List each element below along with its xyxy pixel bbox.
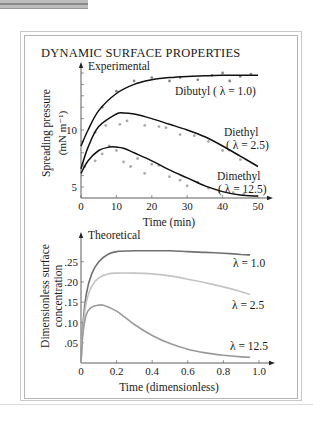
- data-point: [133, 80, 136, 83]
- theoretical-chart: .05.10.15.20.2500.20.40.60.81.0Theoretic…: [39, 229, 275, 394]
- data-point: [221, 149, 224, 152]
- x-tick-label: 10: [111, 200, 123, 212]
- x-tick-label: 50: [253, 200, 265, 212]
- y-tick-label: .15: [64, 296, 78, 308]
- x-axis-arrow-icon: [267, 196, 273, 200]
- x-tick-label: 0.8: [217, 365, 231, 377]
- curve-label-lambda-12.5: λ = 12.5: [230, 340, 268, 352]
- y-axis-label: Spreading pressure: [40, 89, 53, 177]
- x-tick-label: 40: [217, 200, 229, 212]
- series-label-dimethyl: Dimethyl: [217, 170, 260, 183]
- y-tick-label: .20: [64, 276, 78, 288]
- y-axis-label-line2: concentration: [52, 264, 64, 327]
- series-label-dibutyl: Dibutyl ( λ = 1.0): [175, 85, 256, 98]
- data-point: [168, 80, 171, 83]
- x-tick-label: 0.2: [110, 365, 124, 377]
- data-point: [51, 169, 54, 172]
- data-point: [196, 78, 199, 81]
- data-point: [101, 153, 104, 156]
- y-axis-arrow-icon: [79, 62, 83, 68]
- x-axis-label: Time (dimensionless): [119, 381, 219, 394]
- y-tick-label: 5: [72, 181, 78, 193]
- data-point: [165, 126, 168, 129]
- experimental-chart: 51001020304050ExperimentalTime (min)Spre…: [40, 60, 273, 229]
- panel-label-theoretical: Theoretical: [88, 229, 140, 241]
- x-tick-label: 30: [182, 200, 194, 212]
- x-tick-label: 0: [78, 200, 84, 212]
- series-label-diethyl: Diethyl: [224, 126, 259, 139]
- curve-label-lambda-1: λ = 1.0: [233, 257, 265, 269]
- data-point: [207, 140, 210, 143]
- data-point: [104, 124, 107, 127]
- y-axis-label: Dimensionless surface: [39, 244, 51, 348]
- data-point: [193, 134, 196, 137]
- y-tick-label: .10: [64, 317, 78, 329]
- x-axis-label: Time (min): [143, 216, 195, 229]
- curve-label-lambda-2.5: λ = 2.5: [232, 299, 264, 311]
- charts-canvas: 51001020304050ExperimentalTime (min)Spre…: [0, 0, 313, 431]
- y-axis-arrow-icon: [79, 232, 83, 238]
- y-axis-label-units: (mN m⁻¹): [56, 111, 69, 156]
- panel-label-experimental: Experimental: [88, 60, 150, 73]
- series-lambda-label-diethyl: ( λ = 2.5): [226, 139, 269, 152]
- data-point: [119, 123, 122, 126]
- x-tick-label: 0.4: [145, 365, 159, 377]
- data-point: [115, 149, 118, 152]
- data-point: [168, 175, 171, 178]
- data-point: [143, 172, 146, 175]
- data-point: [158, 125, 161, 128]
- y-tick-label: .05: [64, 337, 78, 349]
- y-tick-label: .25: [64, 256, 78, 268]
- data-point: [126, 120, 129, 123]
- data-point: [136, 157, 139, 160]
- data-point: [58, 150, 61, 153]
- data-point: [221, 72, 224, 75]
- data-point: [94, 159, 97, 162]
- theory-curve-lambda-2.5: [81, 273, 250, 363]
- data-point: [150, 76, 153, 79]
- data-point: [186, 185, 189, 188]
- data-point: [179, 179, 182, 182]
- theory-curve-lambda-12.5: [81, 305, 250, 363]
- x-tick-label: 20: [146, 200, 158, 212]
- data-point: [239, 158, 242, 161]
- data-point: [129, 165, 132, 168]
- x-tick-label: 1.0: [252, 365, 266, 377]
- data-point: [179, 133, 182, 136]
- x-axis-arrow-icon: [269, 361, 275, 365]
- data-point: [150, 163, 153, 166]
- data-point: [228, 80, 231, 83]
- x-tick-label: 0: [78, 365, 84, 377]
- data-point: [143, 124, 146, 127]
- x-tick-label: 0.6: [181, 365, 195, 377]
- data-point: [122, 161, 125, 164]
- series-lambda-label-dimethyl: ( λ = 12.5): [218, 183, 267, 196]
